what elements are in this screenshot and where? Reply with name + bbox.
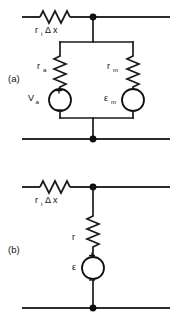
- panel-b-axial-resistor-subscript-label: i: [41, 200, 42, 207]
- figure-root: r i Δ x r a V a r m ε m (a): [0, 0, 175, 321]
- panel-a-left-resistor-symbol-label: r: [37, 61, 40, 71]
- panel-a-axial-resistor-factor-label: Δ x: [45, 25, 58, 35]
- panel-a-right-resistor-symbol: [127, 56, 139, 87]
- panel-a-left-resistor-symbol: [54, 56, 66, 87]
- panel-b-resistor-symbol-label: r: [72, 232, 75, 242]
- panel-a-right-source-symbol-label: ε: [104, 93, 108, 103]
- panel-a-axial-resistor-subscript-label: i: [41, 30, 42, 37]
- panel-a-bottom-node: [90, 136, 97, 143]
- panel-a-label: (a): [8, 73, 20, 84]
- panel-a-left-resistor-subscript-label: a: [43, 66, 47, 73]
- panel-a-right-source-subscript-label: m: [111, 98, 116, 105]
- panel-b-source-symbol-label: ε: [72, 262, 76, 272]
- panel-b-axial-resistor-factor-label: Δ x: [45, 195, 58, 205]
- panel-a-right-source-circle: [122, 89, 144, 111]
- panel-a-left-source-circle: [49, 89, 71, 111]
- panel-b-axial-resistor-symbol: [40, 181, 70, 193]
- panel-a-axial-resistor-symbol-label: r: [35, 25, 38, 35]
- panel-b: r i Δ x r ε (b): [8, 181, 170, 311]
- panel-b-source-circle: [82, 257, 104, 279]
- panel-a: r i Δ x r a V a r m ε m (a): [8, 11, 170, 142]
- panel-b-axial-resistor-symbol-label: r: [35, 195, 38, 205]
- panel-b-resistor-symbol: [87, 216, 99, 247]
- panel-a-right-resistor-symbol-label: r: [107, 61, 110, 71]
- panel-a-right-resistor-subscript-label: m: [113, 66, 118, 73]
- panel-b-bottom-node: [90, 305, 97, 312]
- panel-b-label: (b): [8, 244, 20, 255]
- panel-a-axial-resistor-symbol: [40, 11, 70, 23]
- circuit-diagram-svg: r i Δ x r a V a r m ε m (a): [0, 0, 175, 321]
- panel-a-left-source-subscript-label: a: [36, 98, 40, 105]
- panel-a-left-source-symbol-label: V: [28, 93, 34, 103]
